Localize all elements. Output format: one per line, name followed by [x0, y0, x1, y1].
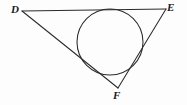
geometry-figure: D E F: [0, 0, 187, 105]
vertex-label-f: F: [113, 90, 120, 101]
vertex-label-e: E: [167, 2, 174, 13]
figure-canvas: [0, 0, 187, 105]
vertex-label-d: D: [11, 4, 19, 15]
